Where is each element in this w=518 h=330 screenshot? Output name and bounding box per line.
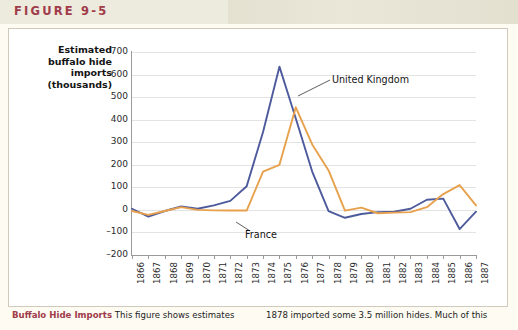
- caption-left-text: This figure shows estimates: [112, 310, 234, 320]
- series-label-united-kingdom: United Kingdom: [332, 74, 409, 85]
- caption-title: Buffalo Hide Imports: [12, 310, 112, 320]
- series-label-france: France: [245, 229, 277, 240]
- figure-caption: Buffalo Hide Imports This figure shows e…: [0, 308, 518, 330]
- caption-right-column: 1878 imported some 3.5 million hides. Mu…: [266, 310, 514, 321]
- chart-series-layer: [0, 0, 518, 330]
- callout-leader-line: [298, 80, 330, 96]
- caption-left-column: Buffalo Hide Imports This figure shows e…: [12, 310, 262, 321]
- figure-root: FIGURE 9-5 Estimated buffalo hide import…: [0, 0, 518, 330]
- series-line-united-kingdom: [132, 67, 476, 229]
- series-line-france: [132, 107, 476, 215]
